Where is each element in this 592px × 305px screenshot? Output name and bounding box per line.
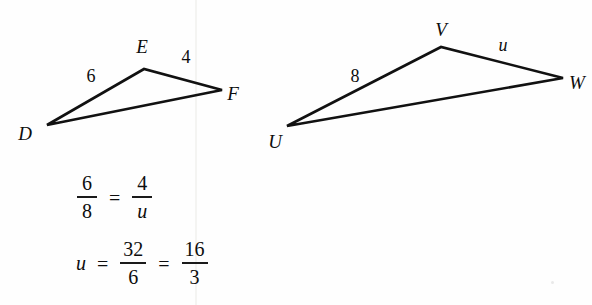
- triangle-def-outline: [47, 69, 222, 125]
- solution-equation-term-0: u: [74, 253, 88, 273]
- proportion-equation-fraction-2: 4u: [129, 172, 155, 223]
- vertex-label-d: D: [18, 124, 32, 143]
- side-uv-length: 8: [351, 67, 360, 85]
- side-ef-length: 4: [182, 48, 191, 66]
- vertex-label-e: E: [136, 37, 148, 56]
- proportion-equation-fraction-bar-2: [132, 196, 152, 198]
- proportion-equation-numerator-0: 6: [79, 172, 95, 194]
- proportion-equation-fraction-0: 68: [74, 172, 100, 223]
- solution-equation-denominator-4: 3: [187, 266, 203, 288]
- proportion-equation-fraction-bar-0: [77, 196, 97, 198]
- triangle-uvw-outline: [287, 47, 563, 126]
- solution-equation-fraction-bar-4: [182, 262, 208, 264]
- solution-equation-numerator-4: 16: [182, 238, 208, 260]
- solution-equation-fraction-2: 326: [117, 238, 149, 289]
- proportion-equation: 68=4u: [74, 172, 155, 223]
- proportion-equation-numerator-2: 4: [134, 172, 150, 194]
- proportion-equation-denominator-2: u: [134, 200, 150, 222]
- solution-equation: u=326=163: [74, 238, 211, 289]
- vertex-label-f: F: [227, 84, 239, 103]
- solution-equation-fraction-bar-2: [120, 262, 146, 264]
- vertex-label-w: W: [569, 73, 585, 92]
- side-de-length: 6: [87, 67, 96, 85]
- side-vw-length: u: [499, 36, 508, 54]
- proportion-equation-operator-1: =: [100, 188, 129, 208]
- vertex-label-v: V: [435, 20, 447, 39]
- solution-equation-operator-3: =: [149, 254, 178, 274]
- solution-equation-denominator-2: 6: [125, 266, 141, 288]
- proportion-equation-denominator-0: 8: [79, 200, 95, 222]
- solution-equation-numerator-2: 32: [120, 238, 146, 260]
- vertex-label-u: U: [268, 132, 282, 151]
- solution-equation-fraction-4: 163: [179, 238, 211, 289]
- worksheet-canvas: DEF64UVW8u 68=4uu=326=163: [0, 0, 592, 305]
- solution-equation-operator-1: =: [88, 254, 117, 274]
